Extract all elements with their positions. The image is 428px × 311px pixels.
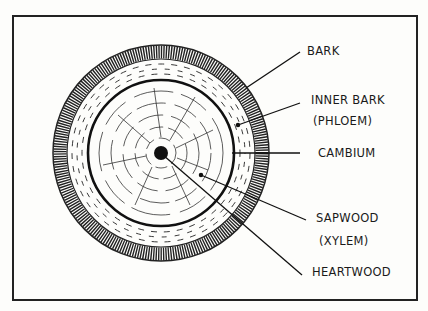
label-bark: BARK — [307, 44, 340, 58]
label-inner-bark: INNER BARK — [311, 93, 385, 107]
label-sapwood: SAPWOOD — [316, 211, 379, 225]
label-cambium: CAMBIUM — [318, 146, 376, 160]
label-heartwood: HEARTWOOD — [312, 265, 391, 279]
label-xylem: (XYLEM) — [319, 234, 369, 248]
wood-rays — [103, 88, 213, 205]
label-phloem: (PHLOEM) — [313, 114, 372, 128]
